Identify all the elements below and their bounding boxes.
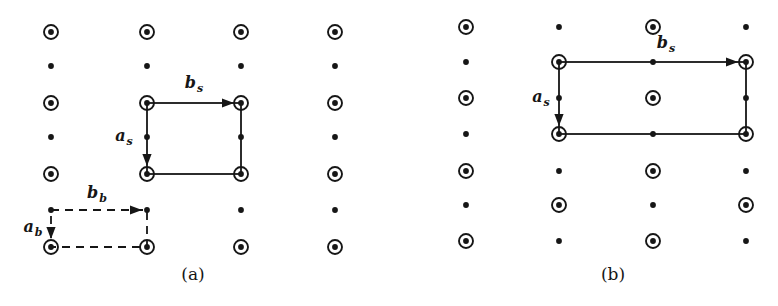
- arrowhead-bs-b: [726, 57, 738, 66]
- lattice-point-dot: [650, 59, 656, 65]
- lattice-point-dot: [238, 134, 244, 140]
- lattice-point-dot: [650, 131, 656, 137]
- lattice-point-dot: [743, 168, 749, 174]
- vector-label-bs-b: bs: [657, 35, 675, 54]
- lattice-point-core: [332, 244, 338, 250]
- lattice-point-core: [238, 244, 244, 250]
- arrowhead-ab-a: [46, 227, 55, 239]
- lattice-point-dot: [144, 134, 150, 140]
- lattice-point-core: [238, 29, 244, 35]
- vector-label-subscript: s: [669, 42, 675, 55]
- lattice-point-dot: [463, 59, 469, 65]
- lattice-point-core: [48, 171, 54, 177]
- vector-label-base: a: [532, 87, 542, 106]
- lattice-point-dot: [650, 202, 656, 208]
- lattice-point-dot: [556, 168, 562, 174]
- vector-label-ab-a: ab: [23, 219, 42, 238]
- vector-label-base: b: [657, 33, 668, 52]
- lattice-point-core: [144, 244, 150, 250]
- lattice-point-core: [650, 168, 656, 174]
- lattice-point-dot: [556, 95, 562, 101]
- figure-a: [44, 25, 342, 254]
- figure-a-caption: (a): [181, 264, 204, 284]
- surface-mesh-outline: [147, 103, 241, 174]
- vector-label-bs-a: bs: [185, 75, 203, 94]
- surface-mesh-b: [554, 57, 746, 134]
- lattice-point-core: [48, 29, 54, 35]
- lattice-point-dot: [743, 24, 749, 30]
- bulk-mesh-outline: [51, 210, 147, 247]
- lattice-point-dot: [48, 207, 54, 213]
- lattice-point-dot: [48, 63, 54, 69]
- vector-label-subscript: s: [127, 135, 133, 148]
- lattice-point-core: [238, 100, 244, 106]
- lattice-point-dot: [48, 134, 54, 140]
- vector-label-as-a: as: [115, 128, 133, 147]
- lattice-point-dot: [144, 63, 150, 69]
- lattice-point-core: [650, 238, 656, 244]
- lattice-point-core: [556, 59, 562, 65]
- lattice-point-dot: [556, 238, 562, 244]
- arrowhead-bb-a: [130, 205, 142, 214]
- vector-label-subscript: b: [35, 226, 43, 239]
- vector-label-base: a: [115, 126, 125, 145]
- arrowhead-as-a: [142, 154, 151, 166]
- lattice-point-dot: [332, 63, 338, 69]
- lattice-figure-page: bs as bb ab bs as (a) (b): [0, 0, 778, 306]
- lattice-point-dot: [463, 131, 469, 137]
- lattice-point-core: [332, 29, 338, 35]
- figure-b-caption: (b): [601, 264, 625, 284]
- lattice-point-core: [332, 171, 338, 177]
- lattice-point-core: [144, 100, 150, 106]
- lattice-point-core: [332, 100, 338, 106]
- bulk-mesh-a: [46, 205, 147, 247]
- lattice-point-core: [463, 24, 469, 30]
- vector-label-subscript: b: [99, 192, 107, 205]
- lattice-point-core: [48, 100, 54, 106]
- lattice-point-dot: [556, 24, 562, 30]
- lattice-point-dot: [743, 95, 749, 101]
- vector-label-base: b: [87, 183, 98, 202]
- surface-mesh-a: [142, 98, 241, 174]
- lattice-point-core: [743, 202, 749, 208]
- lattice-point-dot: [144, 207, 150, 213]
- lattice-point-dot: [238, 207, 244, 213]
- lattice-point-dot: [332, 134, 338, 140]
- lattice-point-core: [556, 131, 562, 137]
- lattice-point-dot: [332, 207, 338, 213]
- lattice-point-core: [463, 95, 469, 101]
- lattice-point-core: [650, 95, 656, 101]
- lattice-point-core: [556, 202, 562, 208]
- lattice-point-core: [463, 238, 469, 244]
- lattice-point-core: [238, 171, 244, 177]
- lattice-point-dot: [743, 238, 749, 244]
- lattice-point-core: [650, 24, 656, 30]
- vector-label-base: b: [185, 73, 196, 92]
- vector-label-subscript: s: [544, 96, 550, 109]
- arrowhead-as-b: [554, 114, 563, 126]
- vector-label-as-b: as: [532, 89, 550, 108]
- vector-label-subscript: s: [197, 82, 203, 95]
- arrowhead-bs-a: [222, 98, 234, 107]
- lattice-point-core: [463, 168, 469, 174]
- figure-a-lattice: [44, 25, 342, 254]
- lattice-point-dot: [463, 202, 469, 208]
- vector-label-base: a: [23, 217, 33, 236]
- figure-b: [459, 20, 753, 248]
- vector-label-bb-a: bb: [87, 185, 107, 204]
- lattice-point-dot: [238, 63, 244, 69]
- lattice-point-core: [743, 59, 749, 65]
- lattice-point-core: [743, 131, 749, 137]
- lattice-point-core: [48, 244, 54, 250]
- lattice-point-core: [144, 171, 150, 177]
- lattice-point-core: [144, 29, 150, 35]
